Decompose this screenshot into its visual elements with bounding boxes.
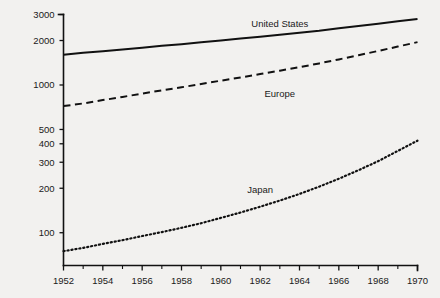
y-tick-label: 2000 [33, 35, 54, 46]
x-tick-label: 1956 [132, 275, 153, 286]
x-tick-label: 1954 [92, 275, 113, 286]
series-label-europe: Europe [265, 88, 296, 99]
series-label-japan: Japan [247, 184, 273, 195]
x-tick-label: 1962 [250, 275, 271, 286]
y-tick-label: 100 [39, 227, 55, 238]
series-label-united-states: United States [251, 18, 308, 29]
x-tick-label: 1970 [407, 275, 428, 286]
y-tick-label: 1000 [33, 79, 54, 90]
x-tick-label: 1958 [171, 275, 192, 286]
chart-background [0, 0, 440, 298]
y-tick-label: 300 [39, 157, 55, 168]
x-tick-label: 1952 [53, 275, 74, 286]
x-tick-label: 1966 [328, 275, 349, 286]
y-tick-label: 3000 [33, 9, 54, 20]
x-tick-label: 1968 [368, 275, 389, 286]
chart-canvas: 100200300400500100020003000 195219541956… [0, 0, 440, 298]
line-chart: 100200300400500100020003000 195219541956… [0, 0, 440, 298]
x-tick-label: 1960 [210, 275, 231, 286]
y-tick-label: 200 [39, 183, 55, 194]
x-tick-label: 1964 [289, 275, 310, 286]
y-tick-label: 500 [39, 124, 55, 135]
y-tick-label: 400 [39, 138, 55, 149]
